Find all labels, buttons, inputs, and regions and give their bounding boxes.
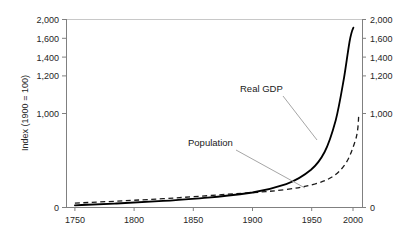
x-tick-label-1800: 1800 (124, 215, 144, 225)
y-tick-label-left-2000: 2,000 (36, 15, 59, 25)
y-tick-label-left-1600: 1,600 (36, 34, 59, 44)
gdp-population-line-chart: 2,000 1,600 1,400 1,200 1,000 0 2,000 1,… (0, 0, 405, 239)
y-tick-label-right-2000: 2,000 (370, 15, 393, 25)
series-label-population: Population (188, 137, 233, 148)
x-tick-label-1750: 1750 (65, 215, 85, 225)
series-label-real-gdp: Real GDP (240, 83, 283, 94)
series-line-population (75, 115, 359, 204)
leader-line-population (236, 150, 305, 188)
x-tick-label-1850: 1850 (183, 215, 203, 225)
y-tick-label-right-1200: 1,200 (370, 71, 393, 81)
y-tick-label-left-0: 0 (54, 203, 59, 213)
x-tick-label-1900: 1900 (242, 215, 262, 225)
y-axis-left-labels: 2,000 1,600 1,400 1,200 1,000 0 (36, 15, 59, 213)
y-tick-label-right-1000: 1,000 (370, 109, 393, 119)
series-line-real-gdp (75, 28, 354, 206)
x-tick-label-1950: 1950 (302, 215, 322, 225)
y-tick-label-right-1600: 1,600 (370, 34, 393, 44)
x-tick-label-2000: 2000 (343, 215, 363, 225)
y-tick-label-right-1400: 1,400 (370, 53, 393, 63)
y-axis-left-ticks (62, 20, 66, 208)
y-tick-label-left-1400: 1,400 (36, 53, 59, 63)
annotation-real-gdp: Real GDP (240, 83, 317, 140)
y-axis-title: Index (1900 = 100) (20, 75, 30, 151)
y-tick-label-right-0: 0 (370, 203, 375, 213)
y-tick-label-left-1000: 1,000 (36, 109, 59, 119)
leader-line-real-gdp (283, 96, 317, 140)
annotation-population: Population (188, 137, 305, 188)
x-axis-labels: 1750 1800 1850 1900 1950 2000 (65, 215, 363, 225)
y-axis-right-labels: 2,000 1,600 1,400 1,200 1,000 0 (370, 15, 393, 213)
y-tick-label-left-1200: 1,200 (36, 71, 59, 81)
chart-container: 2,000 1,600 1,400 1,200 1,000 0 2,000 1,… (0, 0, 405, 239)
